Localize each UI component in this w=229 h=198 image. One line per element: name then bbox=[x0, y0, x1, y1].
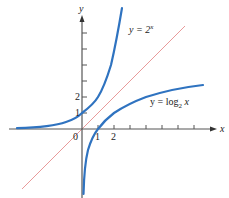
y-axis-label: y bbox=[78, 3, 84, 14]
origin-label: 0 bbox=[73, 131, 78, 142]
x-axis-label: x bbox=[219, 123, 225, 134]
function-graph: y x 0 1 2 1 2 y = 2x y = log2 x bbox=[0, 0, 229, 198]
y-tick-label-2: 2 bbox=[75, 91, 80, 102]
y-axis-arrow-icon bbox=[80, 15, 85, 22]
exponential-label: y = 2x bbox=[128, 23, 154, 35]
y-axis-ticks bbox=[82, 33, 87, 113]
exponential-curve bbox=[17, 8, 122, 128]
x-axis-arrow-icon bbox=[210, 127, 217, 132]
logarithm-label: y = log2 x bbox=[150, 96, 189, 110]
identity-line bbox=[22, 26, 185, 189]
x-tick-label-2: 2 bbox=[111, 131, 116, 142]
x-tick-label-1: 1 bbox=[95, 131, 100, 142]
y-tick-label-1: 1 bbox=[75, 107, 80, 118]
